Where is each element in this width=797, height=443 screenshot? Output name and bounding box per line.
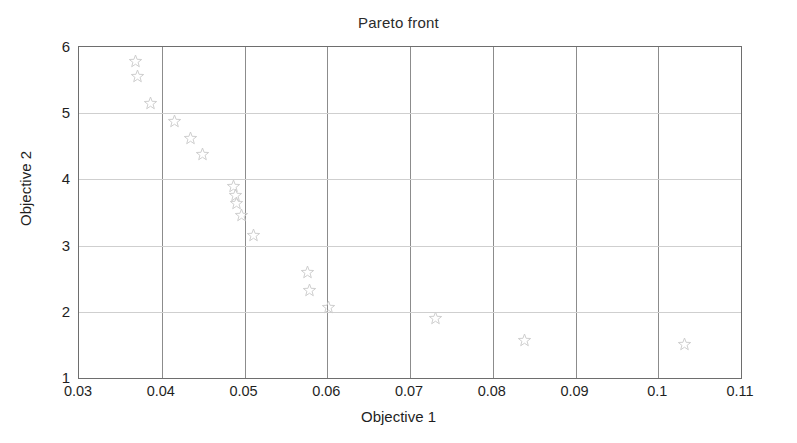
data-point-marker [230,197,243,210]
x-tick-label: 0.11 [726,383,753,399]
gridline-vertical [162,47,163,378]
gridline-vertical [245,47,246,378]
y-tick-label: 5 [50,104,70,121]
data-point-marker [131,70,144,83]
x-axis-label: Objective 1 [0,408,797,425]
gridline-horizontal [79,312,741,313]
x-tick-label: 0.05 [229,383,257,399]
x-tick-label: 0.1 [647,383,667,399]
gridline-vertical [576,47,577,378]
data-point-marker [196,148,209,161]
data-point-marker [247,229,260,242]
data-point-marker [518,334,531,347]
x-tick-label: 0.09 [560,383,588,399]
gridline-horizontal [79,113,741,114]
x-tick-label: 0.06 [312,383,340,399]
data-point-marker [429,312,442,325]
data-point-marker [303,284,316,297]
y-axis-label: Objective 2 [17,129,34,249]
plot-area [78,46,742,379]
chart-title: Pareto front [0,14,797,31]
gridline-vertical [410,47,411,378]
data-point-marker [184,132,197,145]
x-tick-label: 0.04 [147,383,175,399]
y-tick-label: 3 [50,236,70,253]
data-point-marker [235,209,248,222]
y-tick-label: 2 [50,302,70,319]
y-tick-label: 4 [50,170,70,187]
chart-figure: Pareto front 0.030.040.050.060.070.080.0… [0,0,797,443]
y-tick-label: 1 [50,369,70,386]
data-point-marker [144,97,157,110]
data-point-marker [229,189,242,202]
data-point-marker [168,115,181,128]
gridline-horizontal [79,246,741,247]
y-tick-label: 6 [50,38,70,55]
data-point-marker [129,55,142,68]
gridline-vertical [493,47,494,378]
gridline-horizontal [79,179,741,180]
data-point-marker [678,338,691,351]
x-tick-label: 0.07 [395,383,423,399]
x-tick-label: 0.08 [478,383,506,399]
gridline-vertical [327,47,328,378]
gridline-vertical [658,47,659,378]
data-point-marker [227,180,240,193]
data-point-marker [301,266,314,279]
